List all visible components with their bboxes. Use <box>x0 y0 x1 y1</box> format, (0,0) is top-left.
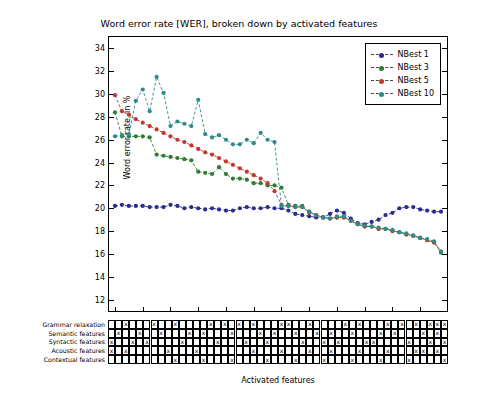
feature-cell <box>200 346 207 355</box>
feature-cell <box>328 338 335 347</box>
feature-cell <box>278 338 285 347</box>
feature-cell <box>221 346 228 355</box>
feature-cell <box>136 346 143 355</box>
feature-cell <box>335 355 342 364</box>
feature-cell <box>264 320 271 329</box>
feature-cell: x <box>200 355 207 364</box>
data-point <box>155 152 159 156</box>
feature-cell <box>115 355 122 364</box>
data-point <box>141 134 145 138</box>
feature-cell: x <box>377 329 384 338</box>
feature-cell: x <box>299 338 306 347</box>
feature-cell <box>427 346 434 355</box>
feature-cell: x <box>434 346 441 355</box>
feature-cell: x <box>377 355 384 364</box>
chart-page: Word error rate [WER], broken down by ac… <box>0 0 478 399</box>
y-tick-label: 26 <box>95 135 105 144</box>
feature-cell: x <box>406 355 413 364</box>
feature-cell <box>158 320 165 329</box>
feature-cell <box>271 346 278 355</box>
data-point <box>335 214 339 218</box>
y-tick-label: 34 <box>95 44 105 53</box>
feature-cell <box>221 338 228 347</box>
feature-cell <box>172 338 179 347</box>
feature-cell <box>313 320 320 329</box>
feature-cell: x <box>200 329 207 338</box>
feature-cell: x <box>420 346 427 355</box>
feature-cell: x <box>214 338 221 347</box>
data-point <box>134 134 138 138</box>
feature-cell <box>391 338 398 347</box>
data-point <box>245 205 249 209</box>
feature-cell: x <box>342 320 349 329</box>
feature-cell <box>179 320 186 329</box>
data-point <box>113 134 117 138</box>
feature-cell: x <box>391 329 398 338</box>
data-point <box>425 208 429 212</box>
feature-cell <box>321 329 328 338</box>
feature-cell <box>158 355 165 364</box>
feature-cell <box>384 329 391 338</box>
data-point <box>148 205 152 209</box>
feature-cell: x <box>122 346 129 355</box>
feature-cell <box>370 355 377 364</box>
y-tick-label: 30 <box>95 90 105 99</box>
data-point <box>293 212 297 216</box>
data-point <box>314 213 318 217</box>
feature-cell <box>165 338 172 347</box>
data-point <box>210 172 214 176</box>
feature-cell <box>434 355 441 364</box>
data-point <box>266 138 270 142</box>
feature-cell <box>136 338 143 347</box>
feature-cell <box>193 355 200 364</box>
data-point <box>418 236 422 240</box>
data-point <box>148 135 152 139</box>
feature-cell <box>292 346 299 355</box>
feature-cell: x <box>306 346 313 355</box>
data-point <box>411 234 415 238</box>
feature-cell <box>250 338 257 347</box>
feature-cell: x <box>193 346 200 355</box>
data-point <box>182 206 186 210</box>
data-point <box>342 214 346 218</box>
feature-cell <box>108 320 115 329</box>
feature-cell: x <box>122 320 129 329</box>
data-point <box>175 119 179 123</box>
feature-cell <box>391 320 398 329</box>
feature-cell: x <box>228 329 235 338</box>
y-tick-label: 22 <box>95 181 105 190</box>
feature-cell <box>377 320 384 329</box>
feature-cell: x <box>384 346 391 355</box>
x-axis-label: Activated features <box>108 376 448 385</box>
feature-cell <box>193 320 200 329</box>
feature-cell <box>441 346 448 355</box>
legend-line-icon <box>371 54 393 55</box>
feature-cell <box>306 338 313 347</box>
feature-cell: x <box>285 320 292 329</box>
data-point <box>272 206 276 210</box>
feature-cell: x <box>349 355 356 364</box>
plot-area: Word error rate, in % 121416182022242628… <box>108 36 448 312</box>
feature-cell: x <box>207 320 214 329</box>
legend-line-icon <box>371 93 393 94</box>
feature-cell: x <box>349 329 356 338</box>
feature-cell <box>264 329 271 338</box>
data-point <box>432 239 436 243</box>
legend-label: NBest 1 <box>398 50 429 59</box>
feature-cell <box>257 355 264 364</box>
feature-cell <box>236 346 243 355</box>
feature-cell <box>158 338 165 347</box>
data-point <box>210 152 214 156</box>
feature-cell: x <box>398 320 405 329</box>
legend-label: NBest 10 <box>398 89 434 98</box>
data-point <box>189 158 193 162</box>
data-point <box>113 93 117 97</box>
data-point <box>404 205 408 209</box>
feature-cell: x <box>278 346 285 355</box>
feature-cell <box>257 338 264 347</box>
y-tick-label: 16 <box>95 249 105 258</box>
data-point <box>272 189 276 193</box>
data-point <box>293 205 297 209</box>
data-point <box>155 205 159 209</box>
feature-cell: x <box>370 338 377 347</box>
